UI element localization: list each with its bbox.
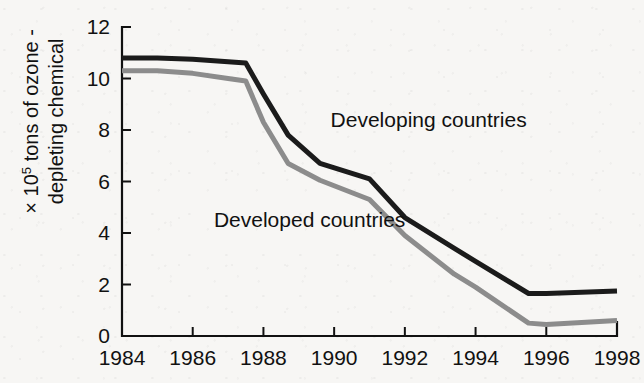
y-tick-label: 2 [98, 273, 110, 296]
series-line [122, 58, 617, 294]
series-annotation-label: Developed countries [214, 208, 405, 231]
series-annotation-label: Developing countries [331, 108, 527, 131]
x-tick-label: 1996 [523, 346, 570, 369]
plot-area: 024681012 198419861988199019921994199619… [0, 0, 644, 383]
y-tick-label: 10 [87, 67, 110, 90]
x-tick-label: 1986 [169, 346, 216, 369]
x-tick-label: 1994 [452, 346, 499, 369]
chart-figure: × 105 tons of ozone - depleting chemical… [0, 0, 644, 383]
data-series [122, 58, 617, 325]
y-tick-label: 8 [98, 118, 110, 141]
x-tick-label: 1988 [240, 346, 287, 369]
y-tick-marks [122, 27, 131, 285]
x-tick-marks [193, 327, 547, 336]
x-tick-label: 1992 [381, 346, 428, 369]
y-tick-label: 12 [87, 15, 110, 38]
y-tick-label: 0 [98, 324, 110, 347]
x-tick-label: 1990 [311, 346, 358, 369]
y-tick-label: 4 [98, 221, 110, 244]
x-tick-label: 1984 [99, 346, 146, 369]
x-tick-labels: 19841986198819901992199419961998 [99, 346, 641, 369]
series-annotations: Developing countriesDeveloped countries [214, 108, 527, 230]
x-tick-label: 1998 [594, 346, 641, 369]
y-tick-labels: 024681012 [87, 15, 111, 347]
y-tick-label: 6 [98, 170, 110, 193]
